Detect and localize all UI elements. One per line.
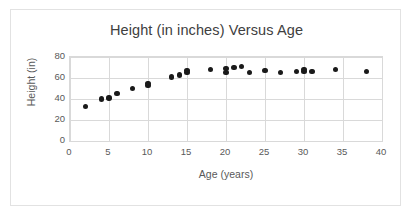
x-tick-label: 30 bbox=[283, 147, 323, 157]
scatter-point bbox=[145, 81, 150, 86]
x-tick-label: 10 bbox=[127, 147, 167, 157]
y-tick-label: 20 bbox=[31, 114, 65, 124]
scatter-point bbox=[184, 68, 189, 73]
scatter-point bbox=[309, 69, 314, 74]
x-tick-label: 20 bbox=[205, 147, 245, 157]
x-tick-label: 15 bbox=[166, 147, 206, 157]
x-axis-label: Age (years) bbox=[69, 168, 383, 180]
scatter-point bbox=[223, 66, 228, 71]
y-tick-label: 80 bbox=[31, 51, 65, 61]
gridline-vertical bbox=[382, 57, 383, 141]
x-tick-label: 35 bbox=[322, 147, 362, 157]
plot-area bbox=[69, 56, 383, 142]
scatter-point bbox=[247, 70, 252, 75]
y-axis-ticks: 020406080 bbox=[29, 56, 65, 142]
gridline-vertical bbox=[70, 57, 71, 141]
x-tick-label: 40 bbox=[361, 147, 401, 157]
scatter-point bbox=[364, 69, 369, 74]
scatter-point bbox=[208, 67, 213, 72]
chart-container: Height (in inches) Versus Age Height (in… bbox=[10, 9, 401, 206]
scatter-point bbox=[301, 67, 306, 72]
gridline-vertical bbox=[148, 57, 149, 141]
scatter-point bbox=[294, 69, 299, 74]
scatter-point bbox=[169, 74, 174, 79]
chart-title: Height (in inches) Versus Age bbox=[11, 22, 402, 38]
scatter-point bbox=[231, 65, 236, 70]
scatter-point bbox=[106, 95, 111, 100]
y-tick-label: 60 bbox=[31, 72, 65, 82]
scatter-point bbox=[333, 67, 338, 72]
scatter-point bbox=[99, 96, 104, 101]
scatter-point bbox=[177, 72, 182, 77]
y-tick-label: 40 bbox=[31, 93, 65, 103]
x-tick-label: 0 bbox=[49, 147, 89, 157]
scatter-point bbox=[262, 68, 267, 73]
scatter-point bbox=[278, 70, 283, 75]
scatter-point bbox=[130, 86, 135, 91]
x-tick-label: 5 bbox=[88, 147, 128, 157]
scatter-point bbox=[83, 104, 88, 109]
gridline-vertical bbox=[343, 57, 344, 141]
x-tick-label: 25 bbox=[244, 147, 284, 157]
scatter-point bbox=[114, 91, 119, 96]
gridline-horizontal bbox=[70, 141, 382, 142]
y-tick-label: 0 bbox=[31, 135, 65, 145]
x-axis-ticks: 0510152025303540 bbox=[69, 147, 383, 161]
scatter-point bbox=[239, 64, 244, 69]
